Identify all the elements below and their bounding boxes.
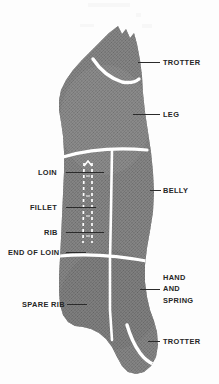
leader-belly (150, 190, 161, 191)
leader-leg (133, 114, 160, 115)
leader-spare-rib (67, 304, 87, 305)
label-hand-and-spring: HAND AND SPRING (163, 272, 193, 306)
leader-trotter-top (138, 62, 160, 63)
label-belly: BELLY (163, 186, 188, 197)
label-hand-and-spring-line-1: HAND (163, 272, 193, 283)
leader-loin (66, 172, 104, 173)
leader-hand-and-spring (140, 289, 160, 290)
leader-end-of-loin (66, 252, 86, 253)
label-end-of-loin: END OF LOIN (8, 248, 59, 259)
label-trotter-top: TROTTER (163, 58, 200, 69)
label-fillet: FILLET (30, 203, 57, 214)
leader-trotter-bottom (148, 341, 160, 342)
diagram-page: LOIN FILLET RIB END OF LOIN SPARE RIB TR… (0, 0, 219, 384)
label-leg: LEG (163, 110, 179, 121)
label-loin: LOIN (38, 168, 57, 179)
leader-rib (66, 232, 104, 233)
label-trotter-bottom: TROTTER (163, 337, 200, 348)
label-rib: RIB (44, 228, 58, 239)
label-hand-and-spring-line-3: SPRING (163, 295, 193, 306)
leader-fillet (66, 207, 96, 208)
label-hand-and-spring-line-2: AND (163, 283, 193, 294)
label-spare-rib: SPARE RIB (22, 300, 65, 311)
